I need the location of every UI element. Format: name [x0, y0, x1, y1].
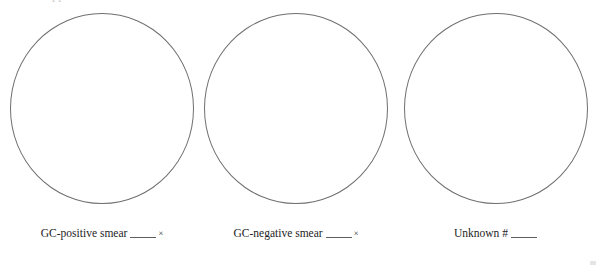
drawing-field-gc-positive: GC-positive smear× — [2, 0, 202, 267]
unknown-number-blank[interactable] — [511, 237, 537, 238]
scan-artifact-mark — [590, 261, 596, 265]
magnification-blank-gc-positive[interactable] — [130, 237, 156, 238]
caption-label-gc-negative: GC-negative smear — [234, 227, 323, 239]
multiplication-sign-icon-gc-positive: × — [158, 228, 163, 238]
drawing-circle-unknown[interactable] — [404, 13, 588, 204]
caption-gc-positive: GC-positive smear× — [2, 226, 202, 240]
caption-label-gc-positive: GC-positive smear — [41, 227, 128, 239]
worksheet-page: pp GC-positive smear× GC-negative smear×… — [0, 0, 600, 267]
drawing-field-unknown: Unknown # — [396, 0, 596, 267]
caption-unknown: Unknown # — [396, 226, 596, 240]
multiplication-sign-icon-gc-negative: × — [354, 228, 359, 238]
magnification-blank-gc-negative[interactable] — [326, 237, 352, 238]
drawing-circle-gc-negative[interactable] — [204, 13, 388, 204]
caption-label-unknown: Unknown # — [454, 227, 508, 239]
drawing-circle-gc-positive[interactable] — [10, 13, 194, 204]
drawing-field-gc-negative: GC-negative smear× — [196, 0, 396, 267]
caption-gc-negative: GC-negative smear× — [196, 226, 396, 240]
